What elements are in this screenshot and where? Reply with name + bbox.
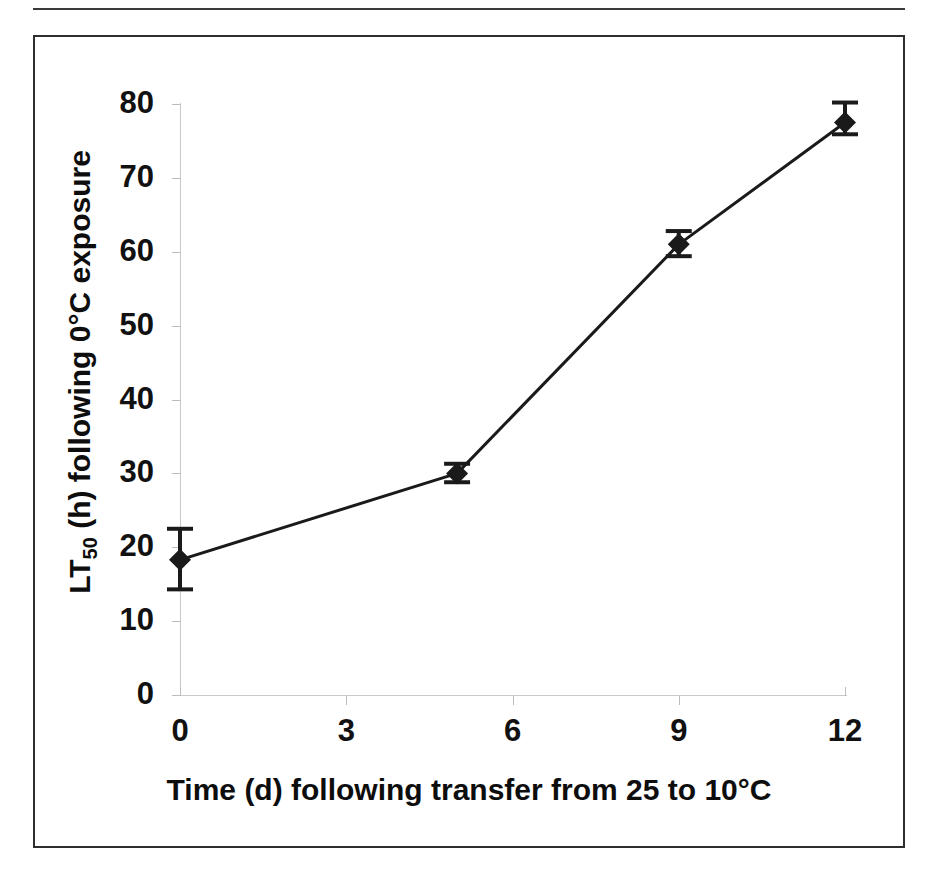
y-tick-label-80: 80 — [92, 87, 154, 118]
figure-container: 01020304050607080 036912 LT50 (h) follow… — [0, 0, 939, 882]
x-axis-line — [180, 695, 847, 696]
y-axis-title-prefix: LT — [63, 559, 96, 593]
y-tick-label-70: 70 — [92, 161, 154, 192]
x-tick-label-12: 12 — [815, 715, 875, 746]
x-tick-label-0: 0 — [150, 715, 210, 746]
y-tick-50 — [172, 326, 181, 327]
y-tick-20 — [172, 547, 181, 548]
y-tick-80 — [172, 104, 181, 105]
x-tick-9 — [679, 696, 680, 705]
y-tick-label-0: 0 — [92, 678, 154, 709]
x-tick-label-6: 6 — [483, 715, 543, 746]
y-tick-label-50: 50 — [92, 309, 154, 340]
x-tick-12 — [845, 687, 846, 696]
y-tick-label-60: 60 — [92, 235, 154, 266]
x-tick-label-9: 9 — [649, 715, 709, 746]
top-horizontal-rule — [33, 8, 905, 10]
y-tick-label-40: 40 — [92, 383, 154, 414]
y-tick-70 — [172, 178, 181, 179]
y-axis-tick-labels: 01020304050607080 — [92, 0, 154, 882]
x-tick-0 — [180, 687, 181, 696]
y-axis-title-suffix: (h) following 0°C exposure — [63, 150, 96, 537]
y-axis-title-subscript: 50 — [79, 537, 101, 559]
y-tick-label-10: 10 — [92, 604, 154, 635]
y-axis-title: LT50 (h) following 0°C exposure — [63, 92, 97, 652]
x-axis-title: Time (d) following transfer from 25 to 1… — [33, 773, 905, 807]
y-tick-60 — [172, 252, 181, 253]
y-tick-label-20: 20 — [92, 530, 154, 561]
x-tick-label-3: 3 — [316, 715, 376, 746]
y-tick-10 — [172, 621, 181, 622]
y-tick-40 — [172, 400, 181, 401]
x-tick-3 — [346, 696, 347, 705]
y-tick-30 — [172, 473, 181, 474]
x-tick-6 — [513, 696, 514, 705]
y-tick-label-30: 30 — [92, 456, 154, 487]
